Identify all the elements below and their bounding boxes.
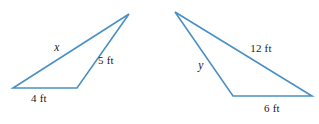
- label-left-unknown-side: x: [54, 42, 59, 54]
- label-right-side-12ft: 12 ft: [250, 43, 271, 54]
- geometry-figure: x 5 ft 4 ft 12 ft y 6 ft: [0, 0, 319, 124]
- label-right-unknown-side: y: [198, 60, 203, 72]
- label-right-base-6ft: 6 ft: [264, 103, 280, 114]
- label-left-base-4ft: 4 ft: [31, 93, 47, 104]
- label-left-side-5ft: 5 ft: [98, 55, 114, 66]
